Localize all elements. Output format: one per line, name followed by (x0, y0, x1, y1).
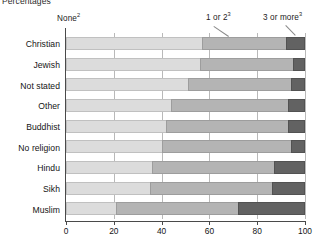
bar-segment-3-or-more (291, 140, 305, 153)
x-tick-label-0: 0 (64, 226, 69, 236)
x-tick-label-40: 40 (157, 226, 166, 236)
category-label-jewish: Jewish (0, 60, 60, 70)
bar-track (66, 99, 305, 112)
x-tick-mark-40 (162, 221, 163, 225)
bar-segment-1-or-2 (202, 37, 286, 50)
bar-track (66, 182, 305, 195)
category-label-hindu: Hindu (0, 163, 60, 173)
bar-row (66, 120, 305, 133)
plot-area (66, 33, 305, 219)
legend-label-one-or-two-text: 1 or 2 (206, 13, 228, 22)
bar-segment-none (66, 182, 150, 195)
stacked-bar-chart: Percentages None2 1 or 23 3 or more3 Chr… (0, 0, 320, 245)
category-label-christian: Christian (0, 39, 60, 49)
bar-track (66, 120, 305, 133)
bar-segment-none (66, 58, 200, 71)
bar-row (66, 182, 305, 195)
bar-segment-1-or-2 (200, 58, 293, 71)
bar-segment-none (66, 140, 162, 153)
legend-label-none-text: None (57, 14, 77, 23)
x-tick-mark-100 (305, 221, 306, 225)
bar-segment-none (66, 78, 188, 91)
bar-track (66, 202, 305, 215)
bar-segment-3-or-more (293, 58, 305, 71)
bar-segment-none (66, 161, 152, 174)
legend-label-three-or-more: 3 or more3 (263, 13, 302, 22)
bar-segment-3-or-more (272, 182, 305, 195)
x-tick-label-20: 20 (109, 226, 118, 236)
bar-segment-3-or-more (286, 37, 305, 50)
category-label-other: Other (0, 101, 60, 111)
bar-segment-1-or-2 (166, 120, 288, 133)
bar-segment-none (66, 99, 171, 112)
bar-segment-1-or-2 (150, 182, 272, 195)
bar-row (66, 202, 305, 215)
bar-segment-3-or-more (288, 99, 305, 112)
category-label-no-religion: No religion (0, 143, 60, 153)
bar-segment-1-or-2 (171, 99, 288, 112)
bar-segment-3-or-more (288, 120, 305, 133)
bar-segment-3-or-more (274, 161, 305, 174)
bar-track (66, 78, 305, 91)
bar-segment-1-or-2 (116, 202, 238, 215)
bar-segment-1-or-2 (188, 78, 291, 91)
x-tick-label-60: 60 (205, 226, 214, 236)
x-tick-label-100: 100 (298, 226, 312, 236)
bar-segment-1-or-2 (152, 161, 274, 174)
x-tick-mark-80 (257, 221, 258, 225)
bar-segment-3-or-more (238, 202, 305, 215)
legend-label-none-note: 2 (77, 12, 80, 18)
bar-track (66, 161, 305, 174)
legend-label-three-or-more-note: 3 (299, 11, 302, 17)
bar-row (66, 99, 305, 112)
bar-track (66, 58, 305, 71)
x-tick-label-80: 80 (253, 226, 262, 236)
legend-label-one-or-two-note: 3 (228, 11, 231, 17)
legend-label-none: None2 (57, 14, 80, 23)
bar-row (66, 58, 305, 71)
legend-label-three-or-more-text: 3 or more (263, 13, 299, 22)
bar-segment-none (66, 202, 116, 215)
x-tick-mark-60 (209, 221, 210, 225)
x-tick-mark-0 (66, 221, 67, 225)
bar-row (66, 161, 305, 174)
axis-unit-label: Percentages (2, 0, 51, 6)
category-label-sikh: Sikh (0, 184, 60, 194)
bar-row (66, 140, 305, 153)
x-tick-mark-20 (114, 221, 115, 225)
bar-segment-none (66, 120, 166, 133)
legend-label-one-or-two: 1 or 23 (206, 13, 231, 22)
bar-track (66, 140, 305, 153)
category-label-muslim: Muslim (0, 205, 60, 215)
bar-segment-1-or-2 (162, 140, 291, 153)
bar-segment-3-or-more (291, 78, 305, 91)
gridline-100 (305, 33, 306, 219)
category-label-not-stated: Not stated (0, 81, 60, 91)
x-axis-line (65, 221, 306, 222)
category-label-buddhist: Buddhist (0, 122, 60, 132)
bar-row (66, 37, 305, 50)
bar-track (66, 37, 305, 50)
bar-row (66, 78, 305, 91)
bar-segment-none (66, 37, 202, 50)
